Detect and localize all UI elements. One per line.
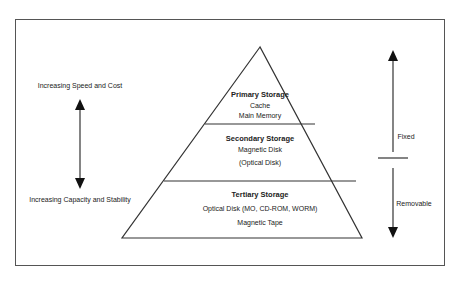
arrow-up-icon (388, 50, 398, 61)
secondary-storage-title: Secondary Storage (226, 134, 294, 143)
right-axis-top-label: Fixed (397, 133, 414, 140)
left-axis-top-label: Increasing Speed and Cost (38, 82, 122, 89)
primary-item: Main Memory (239, 112, 281, 119)
right-axis-bottom-label: Removable (396, 200, 431, 207)
primary-storage-title: Primary Storage (231, 90, 289, 99)
secondary-item: (Optical Disk) (239, 159, 281, 166)
secondary-item: Magnetic Disk (238, 146, 282, 153)
arrow-down-icon (75, 178, 85, 189)
tertiary-item: Magnetic Tape (237, 219, 282, 226)
left-axis-bottom-label: Increasing Capacity and Stability (29, 196, 131, 203)
arrow-down-icon (388, 227, 398, 238)
tertiary-item: Optical Disk (MO, CD-ROM, WORM) (203, 205, 318, 212)
tertiary-storage-title: Tertiary Storage (232, 190, 289, 199)
arrow-up-icon (75, 99, 85, 110)
primary-item: Cache (250, 102, 270, 109)
